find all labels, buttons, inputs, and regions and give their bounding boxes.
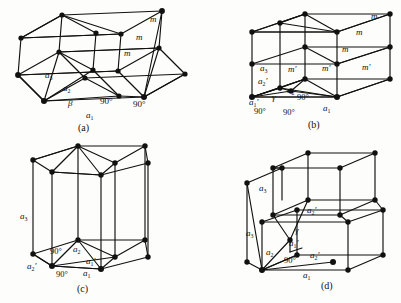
label-a-a3: a3 xyxy=(45,71,52,82)
label-c-angle-1: 90° xyxy=(50,247,62,256)
label-a-angle-1: 90° xyxy=(100,97,113,106)
label-b-gamma: γ xyxy=(272,93,276,102)
label-b-mprime-3: m′ xyxy=(362,63,370,72)
label-b-angle-2: 90° xyxy=(254,107,266,116)
label-b-m-2: m xyxy=(356,28,363,37)
label-a-m-3: m xyxy=(124,49,131,58)
label-c-angle-2: 90° xyxy=(56,270,68,279)
label-b-a1: a1 xyxy=(323,104,330,115)
caption-a: (a) xyxy=(78,123,89,133)
label-d-a3-upper: a3 xyxy=(259,184,266,195)
label-b-angle-3: 90° xyxy=(283,108,295,117)
caption-b: (b) xyxy=(308,120,320,130)
label-b-angle-1: 90° xyxy=(297,93,309,102)
label-a-a1: a1 xyxy=(86,111,93,122)
label-c-a3: a3 xyxy=(20,212,27,223)
label-c-a1: a1 xyxy=(83,269,90,280)
label-d-a2prime-upper: a2′ xyxy=(307,206,316,217)
caption-d: (d) xyxy=(321,281,333,291)
label-d-angle-1: 90° xyxy=(284,256,296,265)
caption-c: (c) xyxy=(77,284,88,294)
label-d-a1prime: a1′ xyxy=(289,239,298,250)
label-c-a2prime: a2′ xyxy=(27,262,36,273)
label-b-a2: a2 xyxy=(287,86,294,97)
label-b-mprime-2: m′ xyxy=(322,64,330,73)
label-d-a2: a2 xyxy=(266,248,273,259)
label-a-a2: a2 xyxy=(63,84,70,95)
label-a-m-2: m xyxy=(136,33,143,42)
label-d-a1: a1 xyxy=(303,271,310,282)
panel-a-drawing xyxy=(18,11,185,101)
label-a-beta: β xyxy=(68,99,72,108)
label-a-angle-2: 90° xyxy=(133,100,146,109)
label-c-a1prime: a1′ xyxy=(86,257,95,268)
label-c-a2: a2 xyxy=(73,245,80,256)
label-d-gamma: γ xyxy=(295,226,299,235)
label-d-a3-lower: a3 xyxy=(246,229,253,240)
label-b-a3: a3 xyxy=(260,64,267,75)
label-b-mprime-1: m′ xyxy=(288,65,296,74)
label-d-a2prime-lower: a2′ xyxy=(310,251,319,262)
panel-b-drawing xyxy=(252,14,390,97)
panel-a-vertices xyxy=(15,8,187,104)
label-b-m-1: m xyxy=(371,12,378,21)
crystal-lattice-figure xyxy=(0,0,401,303)
label-a-m-1: m xyxy=(150,15,157,24)
label-b-m-3: m xyxy=(342,45,349,54)
label-b-a2prime: a2′ xyxy=(258,77,267,88)
